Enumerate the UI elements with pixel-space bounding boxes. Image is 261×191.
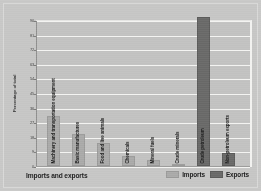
legend-label: Exports [226, 171, 249, 178]
y-axis-title-text: Percentage of total [13, 75, 18, 113]
y-tick-label: 45 [30, 92, 34, 96]
y-tick-label: 54 [30, 77, 34, 81]
y-tick-label: 63 [30, 63, 34, 67]
legend-label: Imports [182, 171, 205, 178]
bar-category-label: Crude minerals [176, 132, 181, 164]
chart-legend: ImportsExports [166, 171, 249, 178]
plot-area: 09182736455463728190 Machinery and trans… [36, 20, 252, 167]
y-tick-label: 81 [30, 34, 34, 38]
legend-item[interactable]: Imports [166, 171, 205, 178]
x-axis-line [36, 166, 250, 167]
legend-swatch [166, 171, 179, 178]
bar-category-label: Basic manufactures [77, 122, 82, 164]
bar[interactable]: Crude petroleum [197, 17, 210, 166]
bar[interactable]: Crude minerals [172, 164, 185, 166]
bar-category-label: Crude petroleum [201, 129, 206, 164]
bar[interactable]: Machinery and transportation equipment [47, 116, 60, 166]
y-tick-label: 90 [30, 19, 34, 23]
bar[interactable]: Mineral fuels [147, 160, 160, 166]
bar-category-label: Mineral fuels [151, 137, 156, 164]
bar[interactable]: Non-petroleum exports [222, 153, 235, 166]
bar-category-label: Non-petroleum exports [226, 116, 231, 164]
gridline [36, 167, 250, 168]
legend-item[interactable]: Exports [210, 171, 249, 178]
bar[interactable]: Chemicals [122, 156, 135, 166]
bar[interactable]: Basic manufactures [72, 134, 85, 166]
bar-category-label: Machinery and transportation equipment [52, 79, 57, 164]
y-tick-label: 72 [30, 48, 34, 52]
y-tick-label: 27 [30, 121, 34, 125]
figure-canvas: Percentage of total 09182736455463728190… [0, 0, 261, 191]
x-axis-title: Imports and exports [26, 172, 88, 179]
bar-fill [172, 164, 185, 166]
y-tick-label: 0 [32, 165, 34, 169]
y-tick-label: 9 [32, 150, 34, 154]
bar-category-label: Chemicals [127, 142, 132, 164]
y-tick-label: 18 [30, 136, 34, 140]
y-tick-label: 36 [30, 107, 34, 111]
bar-series-group: Machinery and transportation equipmentBa… [37, 21, 250, 166]
figure-frame: Percentage of total 09182736455463728190… [3, 3, 258, 188]
y-axis-title: Percentage of total [10, 20, 20, 167]
legend-swatch [210, 171, 223, 178]
y-tick-mark [34, 167, 36, 168]
bar[interactable]: Food and live animals [97, 143, 110, 166]
bar-category-label: Food and live animals [102, 118, 107, 164]
